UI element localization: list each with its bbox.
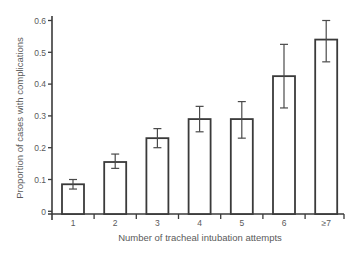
- x-tick-label: 4: [197, 218, 202, 228]
- bar: [189, 119, 211, 214]
- y-tick-label: 0.3: [34, 111, 46, 121]
- bar: [146, 138, 168, 214]
- y-tick-label: 0.4: [34, 79, 46, 89]
- bar: [104, 162, 126, 214]
- x-axis: 123456≥7: [48, 214, 344, 228]
- y-axis-label: Proportion of cases with complications: [14, 37, 25, 199]
- y-tick-label: 0.2: [34, 143, 46, 153]
- y-tick-label: 0.6: [34, 16, 46, 26]
- x-tick-label: ≥7: [321, 218, 331, 228]
- bars: [62, 21, 337, 215]
- y-tick-label: 0: [41, 207, 46, 217]
- x-axis-label: Number of tracheal intubation attempts: [118, 232, 282, 243]
- x-tick-label: 2: [113, 218, 118, 228]
- bar-chart: 00.10.20.30.40.50.6 123456≥7 Number of t…: [0, 0, 362, 254]
- y-axis: 00.10.20.30.40.50.6: [34, 16, 52, 220]
- x-tick-label: 1: [71, 218, 76, 228]
- x-tick-label: 3: [155, 218, 160, 228]
- x-tick-label: 5: [239, 218, 244, 228]
- y-tick-label: 0.5: [34, 48, 46, 58]
- bar: [315, 40, 337, 214]
- y-tick-label: 0.1: [34, 175, 46, 185]
- x-tick-label: 6: [282, 218, 287, 228]
